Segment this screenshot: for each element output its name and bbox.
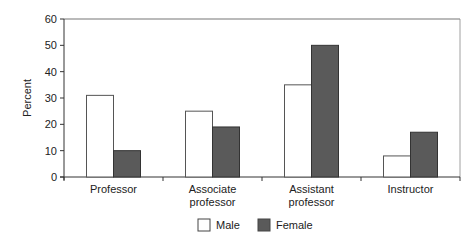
x-category-label: Assistant (289, 183, 334, 195)
y-tick-label: 10 (45, 145, 57, 157)
y-tick-label: 40 (45, 66, 57, 78)
bar-female (213, 127, 240, 177)
x-category-label: professor (190, 196, 236, 208)
x-axis: ProfessorAssociateprofessorAssistantprof… (60, 177, 460, 208)
x-category-label: Associate (189, 183, 237, 195)
bar-female (312, 45, 339, 177)
y-tick-label: 50 (45, 39, 57, 51)
x-category-label: Instructor (388, 183, 434, 195)
legend-swatch-female (258, 219, 270, 231)
bars (87, 45, 438, 177)
legend-swatch-male (198, 219, 210, 231)
bar-female (411, 132, 438, 177)
legend: MaleFemale (198, 219, 313, 231)
x-category-label: professor (289, 196, 335, 208)
y-tick-label: 60 (45, 13, 57, 25)
y-tick-label: 30 (45, 92, 57, 104)
bar-male (87, 95, 114, 177)
x-category-label: Professor (90, 183, 137, 195)
bar-male (285, 85, 312, 177)
y-axis-title: Percent (21, 79, 33, 117)
y-tick-label: 20 (45, 118, 57, 130)
legend-label-male: Male (216, 219, 240, 231)
y-axis: 0102030405060 (45, 13, 64, 183)
bar-male (186, 111, 213, 177)
bar-chart: 0102030405060 ProfessorAssociateprofesso… (0, 0, 470, 251)
bar-male (384, 156, 411, 177)
legend-label-female: Female (276, 219, 313, 231)
bar-female (114, 151, 141, 177)
y-tick-label: 0 (51, 171, 57, 183)
